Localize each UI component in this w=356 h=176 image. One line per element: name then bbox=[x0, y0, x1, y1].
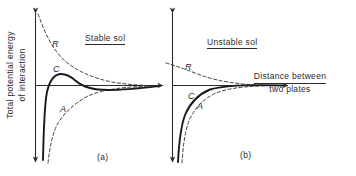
panel-b-combined-curve-label: C bbox=[188, 91, 195, 101]
panel-b-attraction-curve-label: A bbox=[197, 101, 203, 111]
dlvo-potential-energy-figure: Total potential energy of interaction St… bbox=[0, 0, 356, 176]
panel-a-attraction-curve-label: A bbox=[60, 104, 66, 114]
y-axis-label: Total potential energy of interaction bbox=[5, 9, 31, 141]
y-axis-label-line2: of interaction bbox=[17, 9, 29, 141]
panel-b-title: Unstable sol bbox=[207, 37, 257, 49]
panel-b-caption: (b) bbox=[240, 150, 251, 160]
panel-a-combined-curve-label: C bbox=[53, 64, 60, 74]
panel-a-repulsion-curve-label: R bbox=[52, 39, 59, 49]
panel-b-repulsion-curve-label: R bbox=[185, 62, 192, 72]
panel-a-title: Stable sol bbox=[85, 33, 125, 45]
x-axis-label-line2: two plates bbox=[254, 84, 326, 95]
x-axis-label-line1: Distance between bbox=[254, 71, 326, 84]
x-axis-label: Distance between two plates bbox=[254, 71, 326, 95]
y-axis-label-line1: Total potential energy bbox=[5, 9, 17, 141]
panel-a-caption: (a) bbox=[97, 152, 108, 162]
